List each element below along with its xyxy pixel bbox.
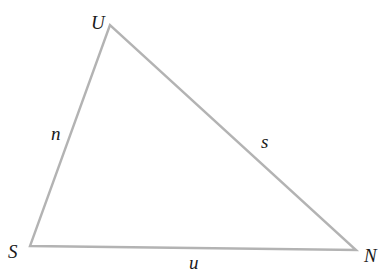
triangle-diagram: U S N n s u [0, 0, 392, 280]
side-label-u: u [189, 252, 199, 273]
vertex-label-n: N [363, 245, 378, 266]
vertex-label-u: U [91, 12, 106, 33]
side-label-s: s [261, 131, 268, 152]
side-label-n: n [51, 123, 61, 144]
triangle-sun [30, 25, 356, 250]
vertex-label-s: S [8, 241, 18, 262]
